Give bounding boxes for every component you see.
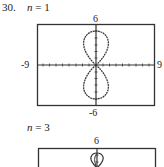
graphs (0, 0, 164, 167)
panel2-graph (39, 148, 156, 167)
panel1-graph (37, 24, 155, 106)
